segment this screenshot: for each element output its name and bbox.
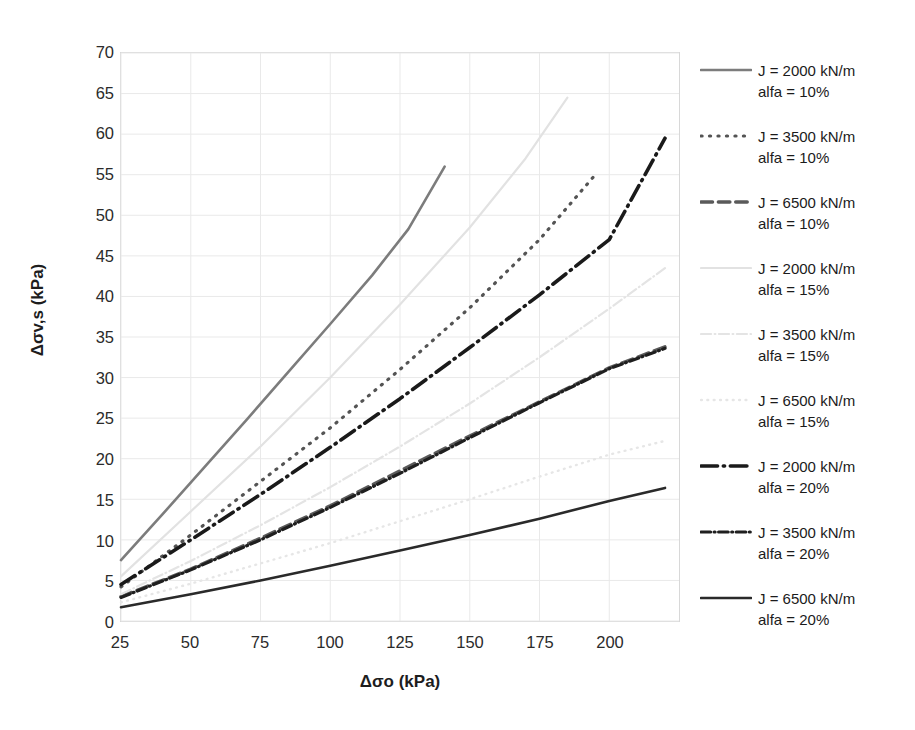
y-tick-label: 65: [68, 84, 114, 101]
legend-line-swatch-icon: [700, 456, 752, 476]
x-tick-label: 200: [575, 634, 645, 651]
x-tick-label: 150: [435, 634, 505, 651]
legend-entry[interactable]: J = 6500 kN/m alfa = 10%: [700, 192, 905, 235]
y-tick-label: 50: [68, 207, 114, 224]
legend-label: J = 3500 kN/m alfa = 20%: [758, 522, 855, 565]
legend-entry[interactable]: J = 3500 kN/m alfa = 10%: [700, 126, 905, 169]
legend-label: J = 3500 kN/m alfa = 10%: [758, 126, 855, 169]
series-line-4: [121, 268, 665, 594]
legend-label: J = 6500 kN/m alfa = 10%: [758, 192, 855, 235]
y-tick-label: 15: [68, 492, 114, 509]
legend-line-swatch-icon: [700, 588, 752, 608]
chart-legend: J = 2000 kN/m alfa = 10%J = 3500 kN/m al…: [700, 60, 905, 660]
legend-label: J = 6500 kN/m alfa = 15%: [758, 390, 855, 433]
x-tick-label: 25: [85, 634, 155, 651]
series-line-6: [121, 138, 665, 584]
x-tick-label: 75: [225, 634, 295, 651]
y-tick-label: 45: [68, 247, 114, 264]
series-line-8: [121, 488, 665, 607]
y-tick-label: 55: [68, 166, 114, 183]
y-axis-ticks: 0510152025303540455055606570: [62, 52, 114, 622]
y-tick-label: 25: [68, 410, 114, 427]
y-tick-label: 5: [68, 573, 114, 590]
y-tick-label: 40: [68, 288, 114, 305]
x-tick-label: 125: [365, 634, 435, 651]
legend-line-swatch-icon: [700, 258, 752, 278]
x-axis-ticks: 255075100125150175200: [120, 634, 680, 658]
x-tick-label: 175: [505, 634, 575, 651]
series-line-2: [121, 347, 665, 597]
x-axis-label: Δσo (kPa): [120, 672, 680, 692]
y-tick-label: 60: [68, 125, 114, 142]
legend-label: J = 3500 kN/m alfa = 15%: [758, 324, 855, 367]
legend-line-swatch-icon: [700, 324, 752, 344]
y-tick-label: 70: [68, 44, 114, 61]
y-tick-label: 10: [68, 532, 114, 549]
legend-entry[interactable]: J = 2000 kN/m alfa = 10%: [700, 60, 905, 103]
chart-figure: 0510152025303540455055606570 25507510012…: [0, 0, 915, 730]
legend-label: J = 2000 kN/m alfa = 10%: [758, 60, 855, 103]
legend-line-swatch-icon: [700, 192, 752, 212]
series-line-0: [121, 167, 445, 561]
legend-line-swatch-icon: [700, 60, 752, 80]
y-tick-label: 35: [68, 329, 114, 346]
y-tick-label: 30: [68, 369, 114, 386]
legend-entry[interactable]: J = 6500 kN/m alfa = 15%: [700, 390, 905, 433]
legend-label: J = 2000 kN/m alfa = 20%: [758, 456, 855, 499]
y-tick-label: 20: [68, 451, 114, 468]
series-line-5: [121, 441, 665, 602]
legend-line-swatch-icon: [700, 522, 752, 542]
plot-area: [120, 52, 680, 622]
legend-entry[interactable]: J = 3500 kN/m alfa = 15%: [700, 324, 905, 367]
legend-entry[interactable]: J = 3500 kN/m alfa = 20%: [700, 522, 905, 565]
x-tick-label: 100: [295, 634, 365, 651]
legend-entry[interactable]: J = 2000 kN/m alfa = 20%: [700, 456, 905, 499]
legend-label: J = 6500 kN/m alfa = 20%: [758, 588, 855, 631]
x-tick-label: 50: [155, 634, 225, 651]
series-line-1: [121, 175, 595, 587]
legend-line-swatch-icon: [700, 390, 752, 410]
legend-entry[interactable]: J = 2000 kN/m alfa = 15%: [700, 258, 905, 301]
legend-entry[interactable]: J = 6500 kN/m alfa = 20%: [700, 588, 905, 631]
y-tick-label: 0: [68, 614, 114, 631]
y-axis-label: Δσv,s (kPa): [28, 210, 48, 410]
series-lines: [121, 53, 679, 621]
legend-line-swatch-icon: [700, 126, 752, 146]
series-line-3: [121, 98, 567, 577]
legend-label: J = 2000 kN/m alfa = 15%: [758, 258, 855, 301]
